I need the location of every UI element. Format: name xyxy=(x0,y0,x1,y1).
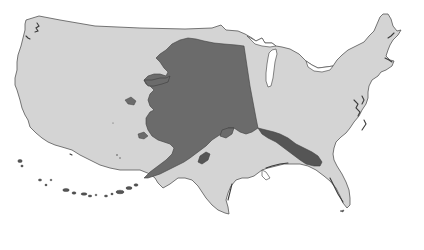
map-view xyxy=(0,0,424,250)
map-canvas xyxy=(0,0,424,250)
mississippi-delta xyxy=(262,170,270,180)
florida-keys xyxy=(340,210,344,212)
